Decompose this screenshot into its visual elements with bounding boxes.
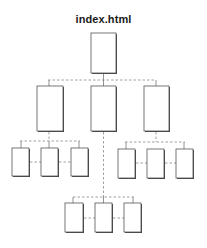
page-node-center-child-2[interactable] xyxy=(95,203,113,233)
page-nodes xyxy=(12,33,194,233)
sitemap-diagram xyxy=(0,0,207,248)
page-node-left-child-3[interactable] xyxy=(71,148,89,177)
page-node-section-center[interactable] xyxy=(91,86,117,132)
page-node-section-left[interactable] xyxy=(37,86,64,132)
page-node-center-child-1[interactable] xyxy=(65,203,84,233)
page-node-section-right[interactable] xyxy=(144,86,170,132)
page-node-right-child-3[interactable] xyxy=(176,149,194,179)
page-node-right-child-1[interactable] xyxy=(118,149,136,179)
page-node-left-child-2[interactable] xyxy=(41,148,59,177)
page-node-right-child-2[interactable] xyxy=(147,149,165,179)
page-node-left-child-1[interactable] xyxy=(12,148,30,177)
page-node-root[interactable] xyxy=(91,33,117,74)
page-node-center-child-3[interactable] xyxy=(124,203,142,233)
